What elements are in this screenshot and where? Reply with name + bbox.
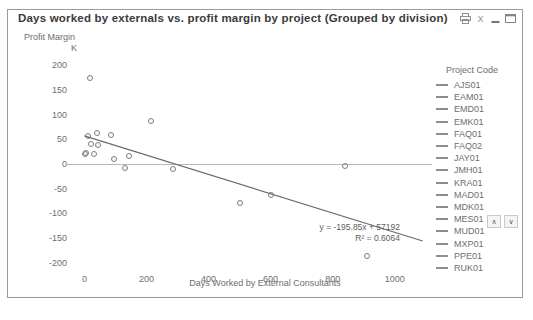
- legend-item[interactable]: EAM01: [436, 91, 518, 103]
- window-controls: X: [460, 13, 516, 24]
- legend-swatch-icon: [436, 169, 448, 171]
- legend-item[interactable]: KRA01: [436, 177, 518, 189]
- legend-item-label: EMK01: [454, 117, 484, 127]
- legend: Project Code AJS01EAM01EMD01EMK01FAQ01FA…: [436, 65, 518, 274]
- scroll-down-icon[interactable]: ∨: [504, 215, 518, 228]
- legend-item[interactable]: FAQ02: [436, 140, 518, 152]
- scroll-up-icon[interactable]: ∧: [487, 215, 501, 228]
- y-tick-label: 150: [52, 85, 67, 95]
- legend-item[interactable]: EMD01: [436, 103, 518, 115]
- legend-swatch-icon: [436, 267, 448, 269]
- x-axis-title: Days Worked by External Consultants: [8, 278, 522, 288]
- legend-item-label: EMD01: [454, 104, 484, 114]
- legend-item-label: RUK01: [454, 263, 483, 273]
- legend-item-label: JMH01: [454, 165, 483, 175]
- legend-swatch-icon: [436, 255, 448, 257]
- legend-swatch-icon: [436, 145, 448, 147]
- chart-window: Days worked by externals vs. profit marg…: [7, 9, 523, 298]
- minimize-icon[interactable]: [490, 13, 501, 24]
- legend-item-label: PPE01: [454, 251, 482, 261]
- window-titlebar: Days worked by externals vs. profit marg…: [8, 10, 522, 30]
- y-axis-unit: K: [71, 43, 77, 53]
- legend-item[interactable]: JAY01: [436, 152, 518, 164]
- legend-item[interactable]: MAD01: [436, 189, 518, 201]
- y-tick-label: 200: [52, 60, 67, 70]
- legend-item[interactable]: PPE01: [436, 250, 518, 262]
- legend-item-label: MDK01: [454, 202, 484, 212]
- plot-area: 200150100500-50-100-150-200 020040060080…: [72, 58, 432, 270]
- legend-item[interactable]: AJS01: [436, 79, 518, 91]
- y-tick-label: -150: [49, 233, 67, 243]
- y-tick-label: -200: [49, 258, 67, 268]
- legend-item-label: MUD01: [454, 226, 485, 236]
- legend-item-label: AJS01: [454, 80, 481, 90]
- legend-items: AJS01EAM01EMD01EMK01FAQ01FAQ02JAY01JMH01…: [436, 79, 518, 274]
- legend-item-label: MAD01: [454, 190, 484, 200]
- legend-swatch-icon: [436, 133, 448, 135]
- maximize-icon[interactable]: [505, 13, 516, 24]
- legend-swatch-icon: [436, 108, 448, 110]
- trendline-r-squared: R² = 0.6064: [355, 233, 400, 243]
- y-tick-label: 50: [57, 134, 67, 144]
- legend-title: Project Code: [446, 65, 518, 75]
- legend-swatch-icon: [436, 121, 448, 123]
- legend-item-label: MXP01: [454, 239, 484, 249]
- y-axis-title: Profit Margin: [24, 32, 75, 42]
- legend-scroll-controls[interactable]: ∧ ∨: [487, 215, 518, 228]
- legend-swatch-icon: [436, 230, 448, 232]
- legend-swatch-icon: [436, 84, 448, 86]
- legend-item[interactable]: EMK01: [436, 116, 518, 128]
- legend-swatch-icon: [436, 218, 448, 220]
- legend-item-label: FAQ02: [454, 141, 482, 151]
- legend-swatch-icon: [436, 182, 448, 184]
- legend-item-label: KRA01: [454, 178, 483, 188]
- legend-swatch-icon: [436, 243, 448, 245]
- legend-swatch-icon: [436, 157, 448, 159]
- y-tick-label: 100: [52, 110, 67, 120]
- legend-item-label: MES01: [454, 214, 484, 224]
- print-icon[interactable]: [460, 13, 471, 24]
- legend-item[interactable]: FAQ01: [436, 128, 518, 140]
- legend-item[interactable]: RUK01: [436, 262, 518, 274]
- legend-swatch-icon: [436, 96, 448, 98]
- legend-item-label: EAM01: [454, 92, 484, 102]
- legend-swatch-icon: [436, 194, 448, 196]
- legend-item[interactable]: JMH01: [436, 164, 518, 176]
- y-tick-label: -100: [49, 208, 67, 218]
- legend-item-label: FAQ01: [454, 129, 482, 139]
- legend-item[interactable]: MDK01: [436, 201, 518, 213]
- export-icon[interactable]: X: [475, 13, 486, 24]
- legend-item-label: JAY01: [454, 153, 480, 163]
- trendline-equation: y = -195.85x + 57192: [320, 222, 400, 232]
- legend-swatch-icon: [436, 206, 448, 208]
- svg-text:X: X: [477, 14, 483, 24]
- legend-item[interactable]: MXP01: [436, 237, 518, 249]
- trendline-equation-label: y = -195.85x + 57192 R² = 0.6064: [320, 222, 400, 244]
- page-title: Days worked by externals vs. profit marg…: [18, 12, 448, 24]
- y-tick-label: -50: [54, 184, 67, 194]
